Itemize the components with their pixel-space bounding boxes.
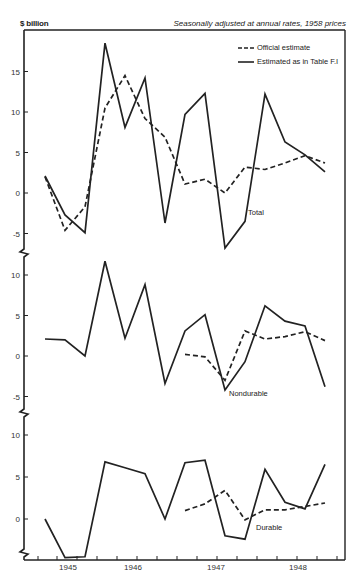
y-tick-label: 10 xyxy=(11,108,20,117)
legend: Official estimate Estimated as in Table … xyxy=(238,43,338,66)
panel-label-total: Total xyxy=(248,208,264,217)
line-chart: 151050-51050-51050 1945194619471948 Tota… xyxy=(0,0,360,580)
legend-estimated-label: Estimated as in Table F.I xyxy=(257,57,338,66)
x-tick-label: 1946 xyxy=(124,563,142,572)
x-tick-label: 1947 xyxy=(207,563,225,572)
y-axis-line xyxy=(20,30,28,560)
y-tick-label: 5 xyxy=(16,312,21,321)
y-tick-label: 10 xyxy=(11,431,20,440)
x-tick-label: 1948 xyxy=(289,563,307,572)
y-axis: 151050-51050-51050 xyxy=(11,68,28,525)
estimated-line-total xyxy=(45,43,325,248)
y-tick-label: 0 xyxy=(16,515,21,524)
panel-label-durable: Durable xyxy=(256,523,282,532)
y-tick-label: 5 xyxy=(16,149,21,158)
x-tick-label: 1945 xyxy=(59,563,77,572)
y-tick-label: 15 xyxy=(11,68,20,77)
y-tick-label: -5 xyxy=(13,393,21,402)
panel-label-nondurable: Nondurable xyxy=(229,389,268,398)
y-tick-label: 5 xyxy=(16,473,21,482)
x-axis: 1945194619471948 xyxy=(38,556,337,572)
series-lines xyxy=(45,43,325,557)
y-tick-label: -5 xyxy=(13,230,21,239)
y-tick-label: 10 xyxy=(11,271,20,280)
estimated-line-durable xyxy=(45,460,325,557)
y-tick-label: 0 xyxy=(16,352,21,361)
plot-frame xyxy=(20,30,345,560)
official-estimate-line-nondurable xyxy=(185,331,325,380)
y-tick-label: 0 xyxy=(16,189,21,198)
estimated-line-nondurable xyxy=(45,261,325,390)
legend-official-label: Official estimate xyxy=(257,43,310,52)
